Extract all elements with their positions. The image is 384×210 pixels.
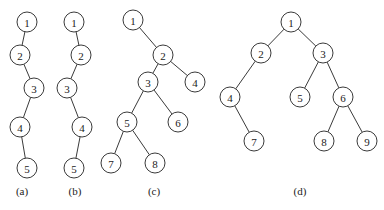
tree-node: 4 [220,87,240,107]
tree-node: 5 [290,87,310,107]
edge-5-7 [115,131,124,153]
node-label: 3 [64,83,70,95]
node-label: 1 [24,17,30,29]
node-label: 2 [17,50,23,62]
edge-4-5 [22,137,26,158]
tree-node: 2 [251,43,271,63]
tree-node: 4 [185,72,205,92]
node-label: 9 [364,136,370,148]
tree-node: 3 [313,43,333,63]
edge-3-5 [132,91,144,113]
edge-6-8 [328,106,339,132]
tree-node: 1 [17,12,37,32]
edge-1-2 [76,32,79,45]
edge-2-3 [153,64,158,74]
tree-caption: (b) [69,185,82,198]
node-label: 7 [108,158,114,170]
edge-4-7 [235,106,249,132]
binary-trees-diagram: 12345(a) 12345(b) 12345678(c) 123456789(… [0,0,384,210]
node-label: 1 [130,15,136,27]
edge-2-3 [24,64,30,79]
tree-caption: (a) [16,185,29,198]
tree-caption: (c) [148,185,161,198]
node-label: 5 [71,163,77,175]
edge-4-5 [76,137,80,158]
node-label: 2 [160,50,166,62]
tree-d: 123456789(d) [220,12,377,198]
node-label: 7 [251,136,257,148]
edge-2-3 [71,64,77,79]
tree-node: 5 [17,158,37,178]
tree-node: 8 [145,153,165,173]
tree-node: 7 [244,131,264,151]
tree-b: 12345(b) [57,12,92,198]
tree-node: 3 [24,78,44,98]
tree-node: 1 [281,12,301,32]
tree-node: 3 [138,72,158,92]
tree-a: 12345(a) [10,12,44,198]
node-label: 4 [192,77,198,89]
edge-1-3 [298,29,316,46]
node-label: 1 [71,17,77,29]
node-label: 8 [321,136,327,148]
edge-1-2 [140,28,157,48]
node-label: 4 [17,122,23,134]
tree-caption: (d) [294,185,307,198]
tree-node: 2 [10,45,30,65]
edge-3-6 [154,90,172,114]
node-label: 5 [24,163,30,175]
node-label: 4 [79,122,85,134]
tree-node: 2 [71,45,91,65]
node-label: 8 [152,158,158,170]
edge-5-8 [133,130,150,154]
tree-node: 6 [333,87,353,107]
node-label: 3 [31,83,37,95]
tree-node: 1 [123,10,143,30]
edge-3-5 [305,62,319,88]
edge-1-2 [22,32,25,45]
tree-node: 1 [64,12,84,32]
edge-2-4 [171,61,188,75]
node-label: 4 [227,92,233,104]
edge-1-2 [268,29,284,46]
node-label: 6 [340,92,346,104]
node-label: 3 [320,48,326,60]
tree-node: 4 [72,117,92,137]
tree-node: 3 [57,78,77,98]
node-label: 2 [78,50,84,62]
edge-3-6 [327,62,339,88]
tree-node: 5 [64,158,84,178]
tree-node: 7 [101,153,121,173]
tree-node: 8 [314,131,334,151]
tree-node: 5 [117,112,137,132]
tree-node: 6 [168,112,188,132]
edge-6-9 [348,106,362,132]
node-label: 1 [288,17,294,29]
edge-3-4 [71,97,79,117]
node-label: 5 [124,117,130,129]
edge-3-4 [23,97,30,117]
tree-node: 2 [153,45,173,65]
node-label: 5 [297,92,303,104]
tree-node: 9 [357,131,377,151]
node-label: 6 [175,117,181,129]
edge-2-4 [236,61,255,89]
node-label: 3 [145,77,151,89]
tree-node: 4 [10,117,30,137]
node-label: 2 [258,48,264,60]
tree-c: 12345678(c) [101,10,205,198]
